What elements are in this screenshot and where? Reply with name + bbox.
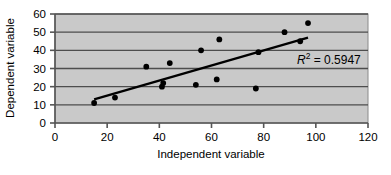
x-axis-tick-labels: 020406080100120 — [52, 131, 378, 143]
data-point — [143, 64, 149, 70]
y-tick-label: 60 — [33, 8, 46, 20]
data-point — [214, 77, 220, 83]
y-tick-label: 30 — [33, 63, 46, 75]
x-tick-label: 80 — [257, 131, 270, 143]
chart-canvas: 0102030405060 020406080100120 R2 = 0.594… — [0, 0, 391, 175]
x-tick-label: 120 — [358, 131, 377, 143]
y-tick-label: 50 — [33, 26, 46, 38]
data-point — [216, 37, 222, 43]
data-point — [253, 86, 259, 92]
x-tick-label: 100 — [306, 131, 325, 143]
data-point — [112, 95, 118, 101]
data-point — [167, 60, 173, 66]
x-tick-label: 0 — [52, 131, 58, 143]
y-tick-label: 40 — [33, 44, 46, 56]
data-point — [282, 29, 288, 35]
data-point — [193, 82, 199, 88]
y-axis-title: Dependent variable — [4, 18, 16, 118]
data-point — [198, 47, 204, 53]
x-tick-label: 60 — [205, 131, 218, 143]
data-point — [160, 80, 166, 86]
data-point — [297, 38, 303, 44]
data-point — [256, 49, 262, 55]
x-axis-title: Independent variable — [157, 148, 264, 160]
r-squared-symbol: R — [297, 53, 306, 67]
data-point — [91, 100, 97, 106]
x-tick-label: 40 — [153, 131, 166, 143]
y-axis-tick-labels: 0102030405060 — [33, 8, 46, 129]
y-tick-label: 20 — [33, 81, 46, 93]
r-squared-value: = 0.5947 — [310, 53, 361, 67]
y-tick-label: 0 — [40, 117, 46, 129]
data-point — [305, 20, 311, 26]
y-tick-label: 10 — [33, 99, 46, 111]
x-tick-label: 20 — [101, 131, 114, 143]
scatter-plot-figure: 0102030405060 020406080100120 R2 = 0.594… — [0, 0, 391, 175]
